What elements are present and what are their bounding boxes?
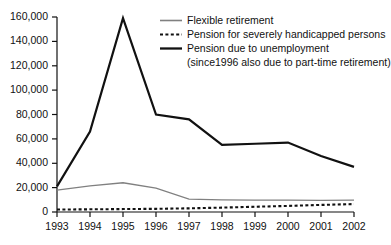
series-line-flexible-retirement	[57, 183, 354, 201]
series-line-severely-handicapped	[57, 204, 354, 209]
y-tick-label-0: 0	[0, 206, 48, 217]
y-tick-label-140000: 140,000	[0, 35, 48, 46]
y-tick-label-60000: 60,000	[0, 133, 48, 144]
y-tick-label-40000: 40,000	[0, 157, 48, 168]
legend-sublabel-unemployment: (since1996 also due to part-time retirem…	[187, 56, 382, 68]
y-tick-label-100000: 100,000	[0, 84, 48, 95]
chart-legend: Flexible retirement Pension for severely…	[160, 14, 382, 68]
y-axis-ticks	[52, 17, 57, 212]
legend-item-unemployment: Pension due to unemployment	[160, 42, 382, 54]
legend-item-flexible-retirement: Flexible retirement	[160, 14, 382, 26]
x-tick-label-2002: 2002	[330, 221, 378, 232]
legend-label-flexible-retirement: Flexible retirement	[187, 14, 273, 26]
legend-label-severely-handicapped: Pension for severely handicapped persons	[187, 28, 385, 40]
x-axis-ticks	[57, 212, 354, 217]
legend-swatch-solid-thin-gray-line	[160, 15, 182, 26]
legend-label-unemployment: Pension due to unemployment	[187, 42, 329, 54]
y-tick-label-120000: 120,000	[0, 60, 48, 71]
legend-swatch-dotted-black-line	[160, 29, 182, 40]
y-tick-label-80000: 80,000	[0, 109, 48, 120]
legend-item-severely-handicapped: Pension for severely handicapped persons	[160, 28, 382, 40]
y-tick-label-20000: 20,000	[0, 182, 48, 193]
y-tick-label-160000: 160,000	[0, 11, 48, 22]
legend-swatch-solid-thick-black-line	[160, 43, 182, 54]
